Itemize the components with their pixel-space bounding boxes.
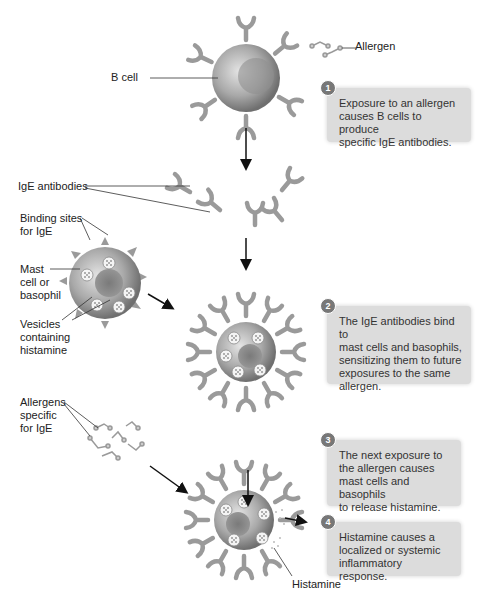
step-text: Histamine causes a — [339, 531, 453, 544]
step-text: mast cells and basophils, — [339, 341, 463, 354]
step-4-box: Histamine causes a localized or systemic… — [327, 522, 461, 576]
step-2-box: The IgE antibodies bind to mast cells an… — [327, 306, 471, 384]
step-3-badge: 3 — [320, 432, 336, 448]
allergen-molecules — [310, 42, 356, 57]
label-line: specific — [20, 409, 66, 422]
label-line: for IgE — [20, 422, 66, 435]
step-text: causes B cells to produce — [339, 110, 463, 136]
step-text: the allergen causes — [339, 462, 453, 475]
step-text: Exposure to an allergen — [339, 97, 463, 110]
label-ige-antibodies: IgE antibodies — [18, 180, 88, 193]
step-text: mast cells and basophils — [339, 475, 453, 501]
label-binding-sites: Binding sites for IgE — [20, 212, 82, 238]
degranulating-mast-cell — [186, 462, 302, 578]
label-histamine: Histamine — [292, 578, 341, 591]
step-4-badge: 4 — [320, 514, 336, 530]
step-text: inflammatory response. — [339, 557, 453, 583]
step-1-box: Exposure to an allergen causes B cells t… — [327, 88, 471, 142]
step-text: The IgE antibodies bind to — [339, 315, 463, 341]
step-text: allergen. — [339, 380, 463, 393]
label-line: basophil — [20, 289, 61, 302]
label-line: histamine — [20, 344, 70, 357]
label-line: cell or — [20, 276, 61, 289]
step-text: specific IgE antibodies. — [339, 136, 463, 149]
label-b-cell: B cell — [111, 71, 138, 84]
step-text: exposures to the same — [339, 367, 463, 380]
label-line: containing — [20, 331, 70, 344]
step-text: localized or systemic — [339, 544, 453, 557]
label-line: Mast — [20, 263, 61, 276]
step-3-box: The next exposure to the allergen causes… — [327, 440, 461, 506]
label-allergens-specific: Allergens specific for IgE — [20, 396, 66, 435]
label-line: Vesicles — [20, 318, 70, 331]
sensitized-mast-cell — [188, 294, 304, 410]
mast-cell — [59, 237, 147, 329]
label-allergen: Allergen — [355, 40, 395, 53]
step-text: The next exposure to — [339, 449, 453, 462]
label-mast-cell: Mast cell or basophil — [20, 263, 61, 302]
label-vesicles: Vesicles containing histamine — [20, 318, 70, 357]
label-line: Binding sites — [20, 212, 82, 225]
label-line: Allergens — [20, 396, 66, 409]
step-text: to release histamine. — [339, 501, 453, 514]
step-text: sensitizing them to future — [339, 354, 463, 367]
step-1-badge: 1 — [320, 80, 336, 96]
label-line: for IgE — [20, 225, 82, 238]
step-2-badge: 2 — [320, 298, 336, 314]
allergens-specific-for-ige — [88, 422, 144, 460]
free-ige-antibodies — [167, 168, 302, 225]
